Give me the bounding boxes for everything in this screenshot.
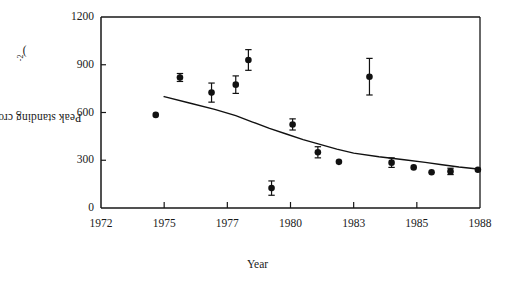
data-point bbox=[152, 112, 159, 119]
data-marker bbox=[366, 73, 373, 80]
data-point bbox=[177, 74, 184, 82]
data-point bbox=[410, 164, 417, 171]
data-marker bbox=[475, 167, 482, 174]
y-axis-tick-label: 600 bbox=[54, 107, 94, 119]
data-marker bbox=[208, 89, 215, 96]
data-points-layer bbox=[152, 50, 481, 196]
data-point bbox=[245, 50, 252, 71]
x-axis-tick-label: 1988 bbox=[457, 218, 503, 230]
data-marker bbox=[428, 169, 435, 176]
data-point bbox=[475, 167, 482, 174]
y-axis-tick-label: 1200 bbox=[54, 11, 94, 23]
data-marker bbox=[336, 159, 343, 166]
y-axis-tick-label: 900 bbox=[54, 59, 94, 71]
data-point bbox=[208, 83, 215, 102]
y-axis-title: Peak standing crop (g m-2) bbox=[10, 18, 36, 208]
data-point bbox=[315, 147, 322, 158]
data-marker bbox=[289, 121, 296, 128]
x-axis-title-text: Year bbox=[247, 258, 268, 270]
chart-figure: Peak standing crop (g m-2) 0300600900120… bbox=[0, 0, 515, 291]
x-axis-tick-label: 1985 bbox=[394, 218, 440, 230]
x-axis-title: Year bbox=[0, 258, 515, 270]
data-marker bbox=[232, 81, 239, 88]
x-axis-tick-label: 1975 bbox=[141, 218, 187, 230]
data-point bbox=[388, 158, 395, 168]
data-marker bbox=[410, 164, 417, 171]
data-point bbox=[336, 159, 343, 166]
data-marker bbox=[447, 168, 454, 175]
data-point bbox=[447, 168, 454, 175]
y-axis-tick-label: 300 bbox=[54, 154, 94, 166]
data-marker bbox=[388, 159, 395, 166]
plot-area bbox=[0, 0, 515, 291]
y-axis-title-tail: ) bbox=[22, 47, 26, 59]
data-marker bbox=[152, 112, 159, 119]
data-point bbox=[366, 58, 373, 95]
data-marker bbox=[315, 149, 322, 156]
data-marker bbox=[177, 74, 184, 81]
data-marker bbox=[245, 57, 252, 64]
x-axis-tick-label: 1980 bbox=[268, 218, 314, 230]
x-axis-tick-label: 1983 bbox=[331, 218, 377, 230]
data-point bbox=[289, 119, 296, 130]
x-axis-tick-label: 1972 bbox=[78, 218, 124, 230]
data-marker bbox=[268, 185, 275, 192]
data-point bbox=[232, 76, 239, 94]
data-point bbox=[428, 169, 435, 176]
y-axis-tick-label: 0 bbox=[54, 202, 94, 214]
data-point bbox=[268, 181, 275, 195]
x-axis-tick-label: 1977 bbox=[204, 218, 250, 230]
